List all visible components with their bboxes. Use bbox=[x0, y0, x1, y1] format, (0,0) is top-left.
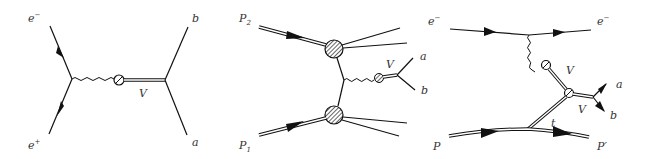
label-b: b bbox=[421, 84, 428, 97]
photon-line bbox=[72, 78, 120, 81]
label-V: V bbox=[139, 87, 148, 100]
hadron-blob-lower bbox=[325, 106, 343, 124]
label-e-plus: e+ bbox=[28, 138, 41, 152]
label-e-minus-in: e− bbox=[428, 14, 441, 28]
label-a: a bbox=[420, 50, 427, 63]
arrow-icon bbox=[286, 121, 304, 132]
arrow-icon bbox=[598, 83, 607, 94]
decay-b-line bbox=[397, 75, 415, 90]
label-a: a bbox=[192, 136, 199, 149]
label-P: P bbox=[432, 140, 441, 153]
label-P-prime: P′ bbox=[596, 140, 607, 153]
arrow-icon bbox=[56, 46, 64, 58]
arrow-icon bbox=[595, 101, 605, 112]
outgoing-a-line bbox=[165, 80, 187, 135]
outgoing-b-line bbox=[165, 27, 188, 80]
arrow-icon bbox=[57, 101, 64, 116]
label-e-minus-out: e− bbox=[597, 14, 610, 28]
label-V-lower: V bbox=[578, 103, 587, 116]
feynman-diagrams-figure: e− e+ V b a bbox=[0, 0, 649, 159]
photon-line bbox=[344, 79, 374, 82]
jet-line bbox=[342, 120, 399, 136]
parton-line bbox=[338, 80, 344, 106]
hadron-blob-upper bbox=[325, 40, 343, 58]
parton-line bbox=[337, 58, 344, 80]
photon-line bbox=[528, 35, 536, 72]
vertex-blob bbox=[375, 74, 384, 83]
label-P1: P1 bbox=[238, 139, 251, 154]
label-b: b bbox=[610, 109, 617, 122]
decay-a-line bbox=[397, 58, 413, 75]
label-P2: P2 bbox=[238, 12, 251, 27]
jet-line bbox=[342, 28, 400, 45]
label-a: a bbox=[616, 78, 623, 91]
label-e-minus: e− bbox=[28, 11, 41, 25]
label-V: V bbox=[386, 58, 395, 71]
label-t: t bbox=[551, 117, 556, 130]
diagram-electroproduction: e− e− V V a b t P P′ bbox=[428, 14, 623, 153]
arrow-icon bbox=[484, 27, 496, 36]
arrow-icon bbox=[286, 31, 305, 39]
label-V-upper: V bbox=[566, 64, 575, 77]
jet-line bbox=[343, 117, 407, 123]
arrow-icon bbox=[553, 126, 572, 137]
label-b: b bbox=[192, 12, 199, 25]
jet-line bbox=[343, 43, 407, 48]
diagram-hadron-collision: P2 P1 V a b bbox=[238, 12, 428, 154]
diagram-annihilation: e− e+ V b a bbox=[28, 11, 199, 152]
arrow-icon bbox=[553, 29, 565, 37]
